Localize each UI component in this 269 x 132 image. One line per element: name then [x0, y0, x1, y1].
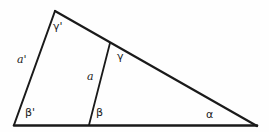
triangle-diagram-svg — [0, 0, 269, 132]
label-beta-prime: β' — [25, 107, 35, 118]
label-gamma-prime: γ' — [53, 21, 63, 32]
label-beta: β — [96, 107, 103, 118]
triangle-hypotenuse — [55, 11, 257, 126]
label-alpha: α — [206, 109, 213, 120]
label-gamma: γ — [117, 51, 124, 62]
label-side-a: a — [87, 71, 94, 82]
label-side-a-prime: a' — [17, 54, 27, 65]
triangle-figure: γ' a' β' a γ β α — [0, 0, 269, 132]
